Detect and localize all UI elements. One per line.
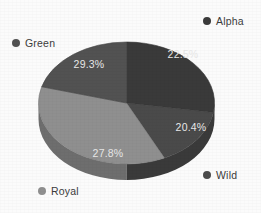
pie-chart-figure: 22.5% 20.4% 27.8% 29.3% Alpha Green Roya… bbox=[0, 0, 261, 213]
slice-label-royal: 27.8% bbox=[93, 147, 124, 159]
pie-top-face bbox=[38, 42, 214, 164]
slice-label-green: 29.3% bbox=[74, 58, 105, 70]
legend-item-green[interactable]: Green bbox=[12, 38, 55, 49]
circle-marker-icon bbox=[203, 171, 211, 179]
slice-label-alpha: 22.5% bbox=[168, 48, 199, 60]
circle-marker-icon bbox=[12, 39, 20, 47]
pie-chart-canvas: 22.5% 20.4% 27.8% 29.3% bbox=[0, 0, 261, 213]
slice-label-wild: 20.4% bbox=[176, 121, 207, 133]
legend-label-alpha: Alpha bbox=[216, 16, 244, 27]
legend-item-royal[interactable]: Royal bbox=[38, 186, 79, 197]
circle-marker-icon bbox=[38, 187, 46, 195]
legend-item-wild[interactable]: Wild bbox=[203, 170, 237, 181]
legend-label-wild: Wild bbox=[216, 170, 237, 181]
circle-marker-icon bbox=[203, 17, 211, 25]
legend-label-royal: Royal bbox=[51, 186, 79, 197]
legend-item-alpha[interactable]: Alpha bbox=[203, 16, 244, 27]
legend-label-green: Green bbox=[25, 38, 55, 49]
